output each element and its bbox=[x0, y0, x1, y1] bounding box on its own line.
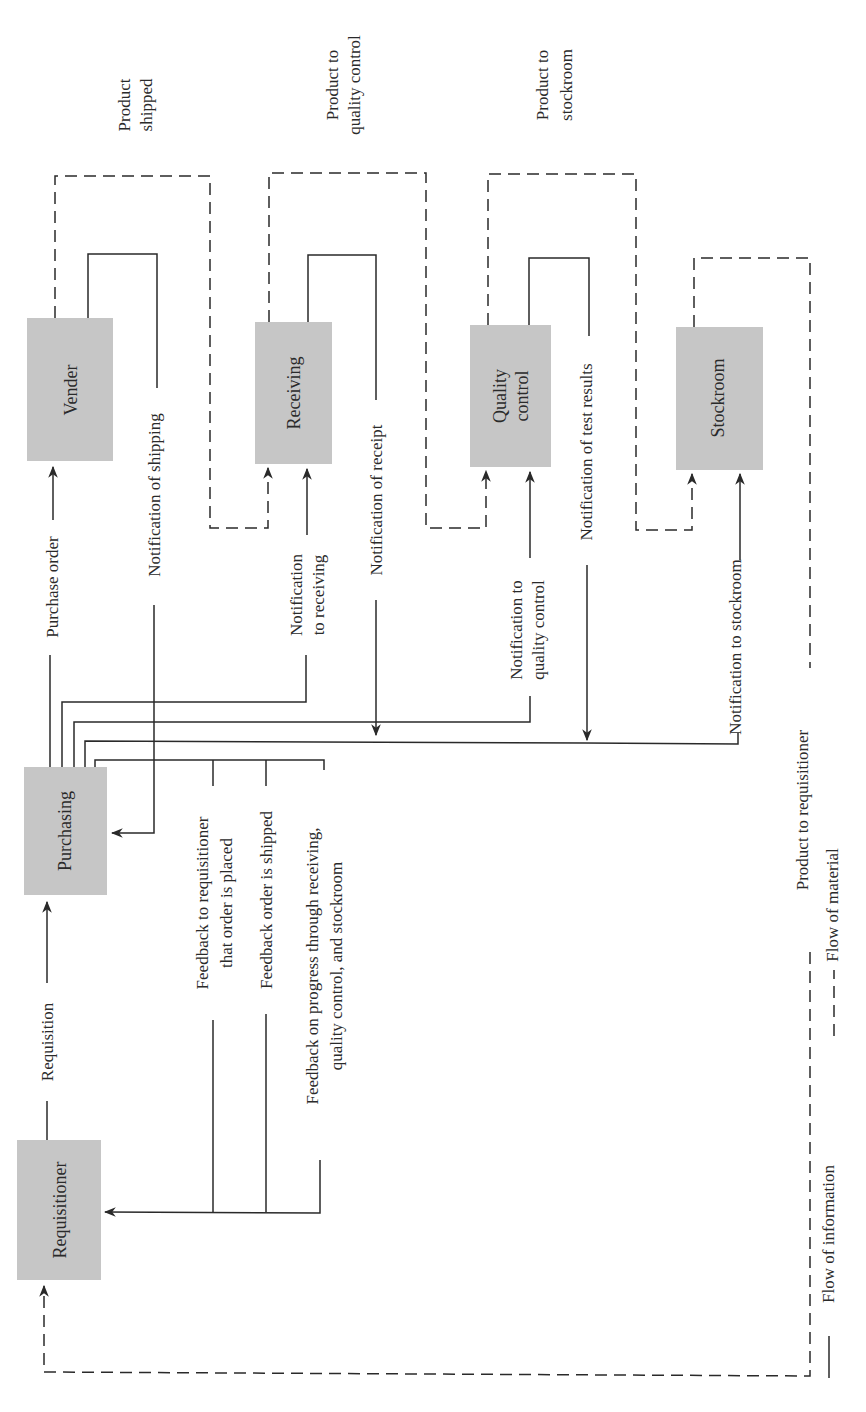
label-product-to-stockroom-1: Product to bbox=[533, 50, 552, 120]
node-vender: Vender bbox=[27, 318, 113, 461]
label-notification-of-shipping: Notification of shipping bbox=[145, 413, 164, 577]
node-quality-control: Quality control bbox=[470, 325, 551, 467]
legend-information-label: Flow of information bbox=[819, 1165, 838, 1303]
node-receiving: Receiving bbox=[255, 322, 332, 464]
label-product-shipped-1: Product bbox=[115, 78, 134, 131]
procurement-flow-diagram: Vender Receiving Quality control Stockro… bbox=[0, 0, 866, 1412]
flow-notification-to-stockroom: Notification to stockroom bbox=[726, 474, 745, 735]
label-notification-to-qc-2: quality control bbox=[529, 580, 548, 680]
label-requisition: Requisition bbox=[38, 1002, 57, 1081]
flow-purchase-order: Purchase order bbox=[43, 467, 62, 767]
label-product-to-qc-1: Product to bbox=[323, 50, 342, 120]
label-notification-to-receiving-2: to receiving bbox=[309, 554, 328, 635]
legend-material-label: Flow of material bbox=[823, 848, 842, 962]
label-notification-to-receiving-1: Notification bbox=[287, 553, 306, 636]
node-quality-control-label-2: control bbox=[512, 371, 532, 422]
legend-material: Flow of material bbox=[823, 848, 842, 1036]
label-feedback-order-placed-2: that order is placed bbox=[217, 838, 236, 968]
label-feedback-progress-1: Feedback on progress through receiving, bbox=[303, 827, 322, 1104]
label-purchase-order: Purchase order bbox=[43, 536, 62, 638]
feedback-bus bbox=[85, 733, 738, 767]
node-quality-control-label-1: Quality bbox=[490, 369, 510, 423]
label-notification-of-receipt: Notification of receipt bbox=[367, 424, 386, 575]
legend: Flow of information Flow of material bbox=[819, 848, 842, 1378]
label-notification-to-qc-1: Notification to bbox=[507, 580, 526, 680]
label-notification-to-stockroom: Notification to stockroom bbox=[726, 559, 745, 735]
node-stockroom: Stockroom bbox=[676, 327, 763, 470]
flow-feedback-to-requisitioner: Feedback to requisitioner that order is … bbox=[95, 760, 346, 1213]
node-requisitioner-label: Requisitioner bbox=[50, 1162, 70, 1259]
node-purchasing: Purchasing bbox=[24, 767, 107, 895]
label-product-shipped-2: shipped bbox=[137, 78, 156, 131]
legend-information: Flow of information bbox=[819, 1165, 838, 1378]
node-vender-label: Vender bbox=[61, 365, 81, 416]
node-receiving-label: Receiving bbox=[284, 357, 304, 430]
label-feedback-order-shipped: Feedback order is shipped bbox=[257, 811, 276, 989]
label-product-to-stockroom-2: stockroom bbox=[557, 49, 576, 121]
label-product-to-qc-2: quality control bbox=[345, 35, 364, 135]
label-feedback-order-placed-1: Feedback to requisitioner bbox=[193, 816, 212, 989]
label-product-to-requisitioner: Product to requisitioner bbox=[793, 729, 812, 890]
node-purchasing-label: Purchasing bbox=[55, 791, 75, 871]
node-stockroom-label: Stockroom bbox=[708, 359, 728, 438]
flow-requisition: Requisition bbox=[38, 902, 57, 1140]
node-requisitioner: Requisitioner bbox=[17, 1140, 101, 1280]
label-notification-of-test-results: Notification of test results bbox=[577, 363, 596, 540]
label-feedback-progress-2: quality control, and stockroom bbox=[327, 862, 346, 1071]
